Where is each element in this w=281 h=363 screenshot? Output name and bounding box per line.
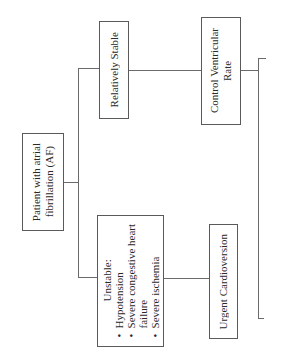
bracket-bottom-tick [258, 318, 264, 319]
unstable-content: Unstable: Hypotension Severe congestive … [101, 224, 161, 337]
connector-unstable-cardioversion [164, 278, 209, 279]
bracket-top-tick [258, 58, 266, 59]
criterion-hypotension: Hypotension [113, 224, 125, 337]
unstable-criteria-list-2: Severe ischemia [149, 224, 161, 337]
node-unstable: Unstable: Hypotension Severe congestive … [97, 215, 164, 347]
criterion-congestive-heart-failure: Severe congestive heart [125, 224, 137, 337]
criterion-severe-ischemia: Severe ischemia [149, 224, 161, 337]
connector-trunk-stable [78, 68, 99, 69]
rate-label: Control Ventricular Rate [208, 28, 234, 113]
cardioversion-label: Urgent Cardioversion [217, 234, 230, 329]
root-label-line-2: fibrillation (AF) [43, 143, 56, 221]
node-control-ventricular-rate: Control Ventricular Rate [201, 17, 241, 125]
connector-trunk-vertical [78, 68, 79, 278]
stable-label: Relatively Stable [108, 32, 121, 107]
node-urgent-cardioversion: Urgent Cardioversion [209, 224, 238, 339]
connector-root-trunk [64, 182, 78, 183]
unstable-criteria-list: Hypotension Severe congestive heart [113, 224, 137, 337]
rate-label-line-1: Control Ventricular [208, 28, 221, 113]
unstable-heading: Unstable: [101, 224, 113, 337]
connector-trunk-unstable [78, 277, 97, 278]
connector-stable-rate [129, 70, 201, 71]
root-node-label: Patient with atrial fibrillation (AF) [30, 143, 56, 221]
connector-rate-bracket [241, 70, 258, 71]
criterion-continuation: failure [137, 224, 149, 337]
bracket-vertical [258, 58, 259, 319]
root-label-line-1: Patient with atrial [30, 143, 43, 221]
node-relatively-stable: Relatively Stable [99, 21, 129, 119]
rate-label-line-2: Rate [221, 28, 234, 113]
root-node-patient-af: Patient with atrial fibrillation (AF) [22, 133, 64, 231]
